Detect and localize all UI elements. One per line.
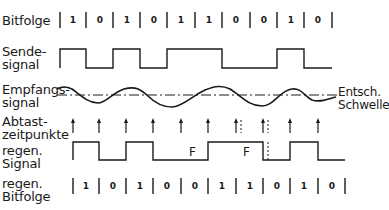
bit-0: 1 — [67, 15, 79, 25]
sendesignal-waveform — [60, 49, 332, 68]
empfangssignal-waveform — [57, 86, 336, 107]
regen-bit-6: 1 — [244, 181, 256, 191]
error-marker-2: F — [243, 146, 250, 159]
regen-bit-2: 1 — [134, 181, 146, 191]
error-marker-1: F — [189, 146, 196, 159]
bit-9: 0 — [312, 15, 324, 25]
bit-2: 1 — [121, 15, 133, 25]
regen-bit-9: 0 — [326, 181, 338, 191]
bit-6: 0 — [230, 15, 242, 25]
bit-8: 1 — [285, 15, 297, 25]
bit-1: 0 — [94, 15, 106, 25]
regen-bit-0: 1 — [80, 181, 92, 191]
regen-bit-1: 0 — [107, 181, 119, 191]
sampling-arrows — [73, 120, 318, 133]
bit-5: 1 — [203, 15, 215, 25]
regen-bit-5: 1 — [216, 181, 228, 191]
regen-bit-7: 0 — [271, 181, 283, 191]
bit-4: 1 — [175, 15, 187, 25]
regen-bit-4: 0 — [189, 181, 201, 191]
bit-7: 0 — [258, 15, 270, 25]
regen-signal-waveform — [73, 142, 345, 160]
regen-bit-3: 0 — [161, 181, 173, 191]
regen-bit-8: 1 — [298, 181, 310, 191]
bit-3: 0 — [148, 15, 160, 25]
